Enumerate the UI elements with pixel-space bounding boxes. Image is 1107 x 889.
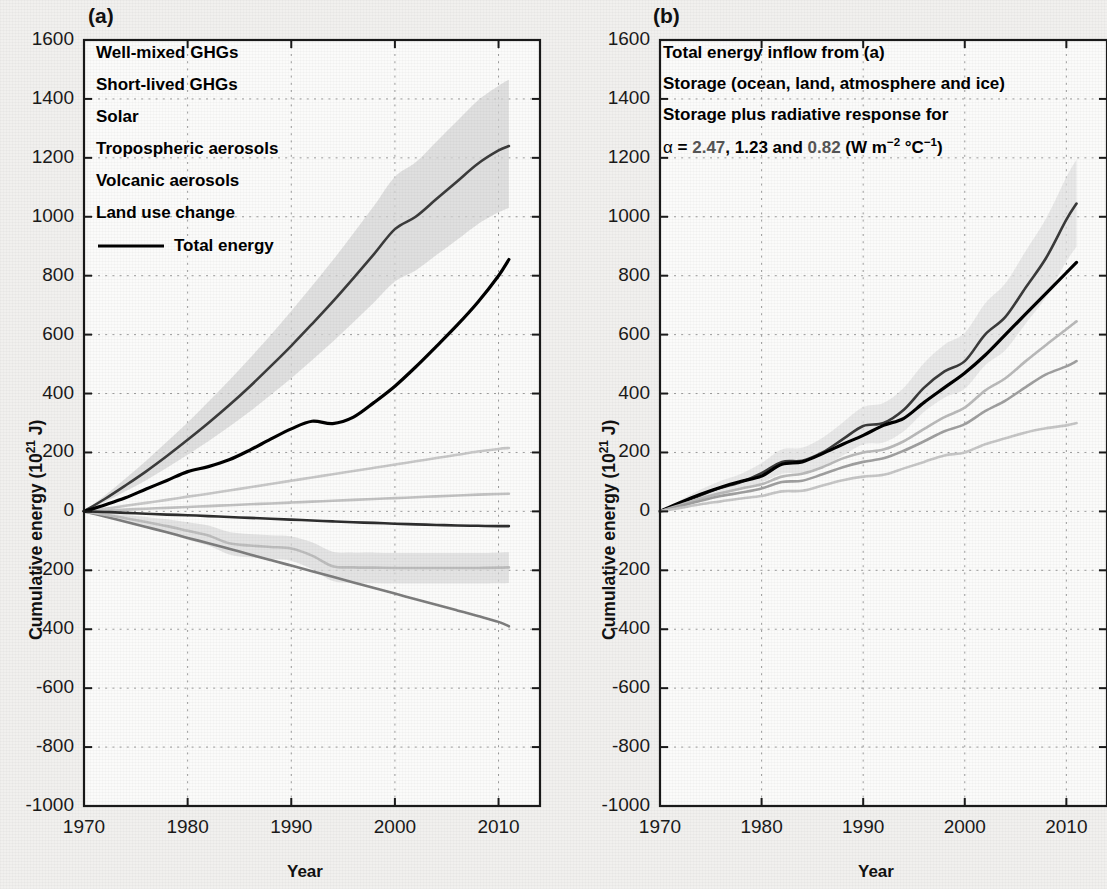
y-label-prefix: Cumulative energy (10 (599, 453, 619, 640)
alpha-sep-1: , (725, 138, 734, 157)
panel-b-ytick--400: -400 (568, 617, 650, 639)
panel-b-xtick-1990: 1990 (818, 816, 908, 838)
alpha-units-close: ) (937, 138, 943, 157)
panel-a-xtick-2010: 2010 (454, 816, 544, 838)
y-label-prefix: Cumulative energy (10 (26, 453, 46, 640)
panel-b-x-axis-label: Year (858, 862, 894, 882)
alpha-eq: = (673, 138, 692, 157)
alpha-units-open: (W m (841, 138, 887, 157)
panel-a-ytick-1600: 1600 (0, 28, 74, 50)
panel-a-legend: Well-mixed GHGs Short-lived GHGs Solar T… (96, 44, 278, 268)
panel-b-ytick-0: 0 (568, 499, 650, 521)
panel-a-xtick-1990: 1990 (246, 816, 336, 838)
panel-b-ytick-800: 800 (568, 264, 650, 286)
legend-item-storage-plus-radiative: Storage plus radiative response for (663, 106, 1005, 137)
panel-b-ytick-1000: 1000 (568, 205, 650, 227)
panel-a-ytick-1200: 1200 (0, 146, 74, 168)
panel-a-tag: (a) (88, 4, 114, 28)
legend-label: Total energy inflow from (a) (663, 43, 885, 62)
panel-b-xtick-2010: 2010 (1021, 816, 1107, 838)
y-label-suffix: J) (599, 420, 619, 440)
panel-a-ytick--800: -800 (0, 735, 74, 757)
legend-label: Tropospheric aerosols (96, 139, 278, 158)
legend-item-tropospheric-aerosols: Tropospheric aerosols (96, 140, 278, 172)
panel-b-ytick--600: -600 (568, 676, 650, 698)
panel-b-ytick--1000: -1000 (568, 794, 650, 816)
legend-label: Well-mixed GHGs (96, 43, 238, 62)
panel-a-ytick--400: -400 (0, 617, 74, 639)
alpha-units-exp-1: −2 (887, 136, 900, 148)
legend-label: Storage (ocean, land, atmosphere and ice… (663, 74, 1005, 93)
alpha-symbol: α (663, 138, 673, 157)
panel-a-ytick-200: 200 (0, 440, 74, 462)
legend-label: Storage plus radiative response for (663, 105, 948, 124)
panel-b-ytick-1200: 1200 (568, 146, 650, 168)
legend-label: Land use change (96, 203, 235, 222)
panel-b-xtick-2000: 2000 (920, 816, 1010, 838)
total-energy-line-sample (96, 241, 166, 251)
alpha-value-1: 2.47 (692, 138, 725, 157)
legend-item-short-lived-ghgs: Short-lived GHGs (96, 76, 278, 108)
panel-b: (b) Cumulative energy (1021 J) Year Tota… (575, 0, 1107, 889)
alpha-value-2: 1.23 (735, 138, 768, 157)
panel-b-ytick--800: -800 (568, 735, 650, 757)
panel-b-ytick-1400: 1400 (568, 87, 650, 109)
panel-a-ytick--200: -200 (0, 558, 74, 580)
panel-a-ytick-1000: 1000 (0, 205, 74, 227)
legend-item-well-mixed-ghgs: Well-mixed GHGs (96, 44, 278, 76)
legend-item-storage: Storage (ocean, land, atmosphere and ice… (663, 75, 1005, 106)
panel-b-legend: Total energy inflow from (a) Storage (oc… (663, 44, 1005, 168)
panel-a-xtick-1980: 1980 (143, 816, 233, 838)
legend-item-solar: Solar (96, 108, 278, 140)
legend-label: Solar (96, 107, 139, 126)
panel-b-ytick-1600: 1600 (568, 28, 650, 50)
panel-b-ytick-600: 600 (568, 323, 650, 345)
panel-a-xtick-1970: 1970 (39, 816, 129, 838)
panel-b-xtick-1980: 1980 (717, 816, 807, 838)
legend-label: Short-lived GHGs (96, 75, 238, 94)
figure-root: (a) Cumulative energy (1021 J) Year Well… (0, 0, 1107, 889)
panel-a-ytick--600: -600 (0, 676, 74, 698)
panel-b-ytick-200: 200 (568, 440, 650, 462)
alpha-units-exp-2: −1 (924, 136, 937, 148)
panel-a-ytick-600: 600 (0, 323, 74, 345)
alpha-value-3: 0.82 (808, 138, 841, 157)
alpha-units-mid: °C (900, 138, 924, 157)
panel-a-x-axis-label: Year (287, 862, 323, 882)
panel-a-ytick-800: 800 (0, 264, 74, 286)
legend-item-land-use-change: Land use change (96, 204, 278, 236)
alpha-sep-2: and (768, 138, 808, 157)
panel-a-plot (0, 0, 600, 889)
y-label-suffix: J) (26, 420, 46, 440)
panel-a-ytick-0: 0 (0, 499, 74, 521)
panel-b-xtick-1970: 1970 (615, 816, 705, 838)
panel-a-ytick-400: 400 (0, 382, 74, 404)
panel-b-ytick-400: 400 (568, 382, 650, 404)
panel-a: (a) Cumulative energy (1021 J) Year Well… (0, 0, 600, 889)
legend-item-total-energy-inflow: Total energy inflow from (a) (663, 44, 1005, 75)
panel-a-ytick-1400: 1400 (0, 87, 74, 109)
legend-label: Total energy (174, 236, 274, 255)
panel-b-ytick--200: -200 (568, 558, 650, 580)
panel-b-tag: (b) (653, 4, 680, 28)
legend-item-alpha-values: α = 2.47, 1.23 and 0.82 (W m−2 °C−1) (663, 137, 1005, 168)
panel-a-ytick--1000: -1000 (0, 794, 74, 816)
legend-item-volcanic-aerosols: Volcanic aerosols (96, 172, 278, 204)
panel-a-xtick-2000: 2000 (350, 816, 440, 838)
legend-label: Volcanic aerosols (96, 171, 239, 190)
legend-item-total-energy: Total energy (96, 236, 278, 268)
